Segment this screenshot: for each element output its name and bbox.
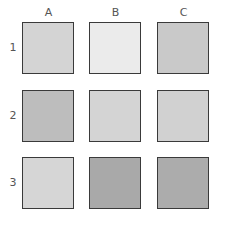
swatch-b1	[89, 22, 141, 74]
swatch-c1	[157, 22, 209, 74]
swatch-b3	[89, 157, 141, 209]
column-label-c: C	[157, 7, 210, 19]
swatch-b2	[89, 90, 141, 142]
swatch-c2	[157, 90, 209, 142]
row-label-3: 3	[8, 177, 18, 189]
swatch-a1	[22, 22, 74, 74]
row-label-2: 2	[8, 110, 18, 122]
swatch-a2	[22, 90, 74, 142]
row-label-1: 1	[8, 42, 18, 54]
swatch-c3	[157, 157, 209, 209]
swatch-a3	[22, 157, 74, 209]
column-label-b: B	[89, 7, 142, 19]
column-label-a: A	[22, 7, 75, 19]
